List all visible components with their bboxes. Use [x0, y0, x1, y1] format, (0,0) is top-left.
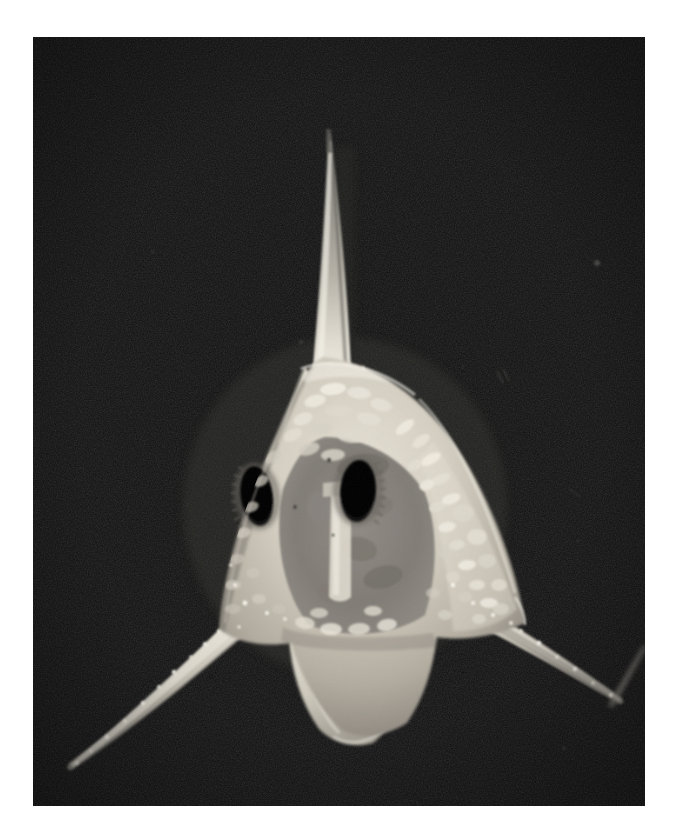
photomicrograph-canvas [33, 37, 645, 806]
specimen-photograph: Photomicrograph of crab zoea larva, fron… [33, 37, 645, 806]
film-grain-overlay [33, 37, 645, 806]
page-canvas: Photomicrograph of crab zoea larva, fron… [0, 0, 673, 828]
